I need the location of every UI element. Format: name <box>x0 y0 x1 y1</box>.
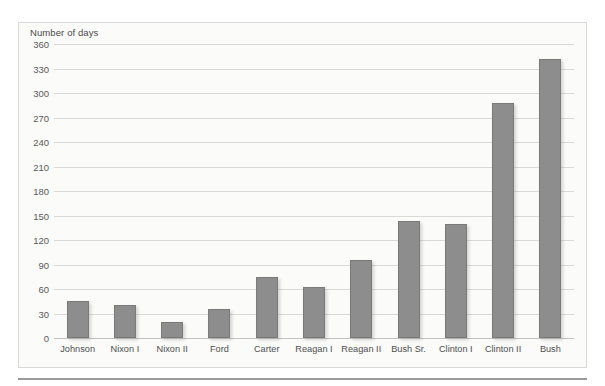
plot-area: JohnsonNixon INixon IIFordCarterReagan I… <box>54 44 574 338</box>
y-tick-label-180: 180 <box>33 186 49 197</box>
y-tick-label-90: 90 <box>38 259 49 270</box>
x-tick-label: Carter <box>254 344 280 354</box>
y-tick-label-270: 270 <box>33 112 49 123</box>
bar <box>350 260 372 338</box>
y-tick-label-150: 150 <box>33 210 49 221</box>
chart-figure: Number of days 0306090120150180210240270… <box>0 0 605 386</box>
bar <box>256 277 278 338</box>
y-axis-tick-labels: 0306090120150180210240270300330360 <box>18 44 49 338</box>
x-tick-label: Ford <box>210 344 229 354</box>
bar <box>303 287 325 338</box>
x-tick-label: Nixon I <box>111 344 140 354</box>
y-tick-label-240: 240 <box>33 137 49 148</box>
bar <box>114 305 136 338</box>
gridline-300 <box>54 93 574 94</box>
y-tick-label-120: 120 <box>33 235 49 246</box>
bar <box>208 309 230 338</box>
y-tick-label-360: 360 <box>33 39 49 50</box>
bar <box>492 103 514 338</box>
x-tick-label: Reagan I <box>295 344 332 354</box>
y-tick-label-210: 210 <box>33 161 49 172</box>
y-axis-title: Number of days <box>30 27 98 38</box>
y-tick-label-330: 330 <box>33 63 49 74</box>
x-tick-label: Reagan II <box>341 344 381 354</box>
bar <box>67 301 89 338</box>
x-tick-label: Bush <box>540 344 561 354</box>
bar <box>445 224 467 338</box>
x-tick-label: Nixon II <box>157 344 188 354</box>
bar <box>539 59 561 338</box>
y-tick-label-30: 30 <box>38 308 49 319</box>
y-tick-label-60: 60 <box>38 284 49 295</box>
y-tick-label-0: 0 <box>44 333 49 344</box>
x-tick-label: Bush Sr. <box>391 344 426 354</box>
x-tick-label: Clinton II <box>485 344 521 354</box>
bar <box>398 221 420 338</box>
y-tick-label-300: 300 <box>33 88 49 99</box>
x-tick-label: Johnson <box>60 344 95 354</box>
footer-divider <box>18 378 587 380</box>
gridline-0 <box>54 338 574 339</box>
bar <box>161 322 183 338</box>
x-tick-label: Clinton I <box>439 344 473 354</box>
gridline-360 <box>54 44 574 45</box>
gridline-330 <box>54 69 574 70</box>
